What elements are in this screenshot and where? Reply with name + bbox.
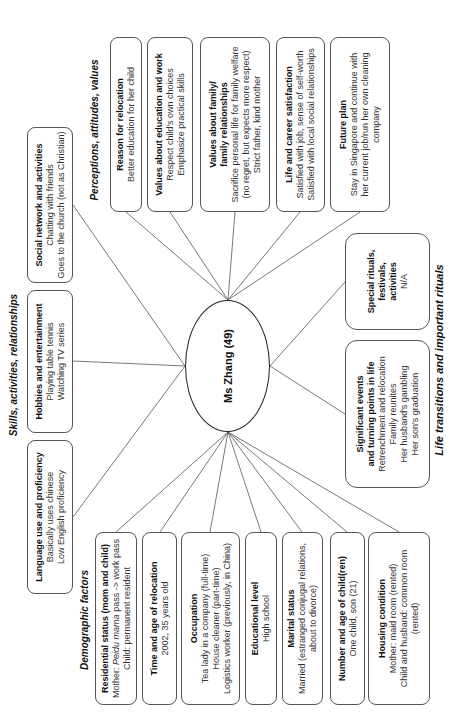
box-title: Values about family/: [208, 81, 219, 168]
center-node-label: Ms Zhang (49): [222, 329, 234, 403]
box-title: Language use and proficiency: [34, 452, 45, 582]
box-title: Social network and activities: [34, 143, 45, 266]
mind-map-canvas: Skills, activities, relationships Percep…: [0, 0, 453, 728]
box-future-plan: Future plan Stay in Singapore and contin…: [330, 37, 390, 212]
box-title: Marital status: [286, 589, 297, 647]
category-label-demographic: Demographic factors: [79, 570, 90, 670]
box-educational-level: Educational level High school: [245, 532, 277, 705]
box-life-career-satisfaction: Life and career satisfaction Satisfied w…: [276, 37, 325, 212]
box-time-age-relocation: Time and age of relocation 2002, 35 year…: [142, 532, 177, 705]
box-title: Occupation: [189, 594, 200, 644]
box-values-education-work: Values about education and work Respect …: [147, 37, 193, 212]
box-title: Residential status (mom and child): [100, 544, 111, 693]
box-title: Reason for relocation: [115, 78, 126, 171]
box-values-family: Values about family/ family relationship…: [200, 37, 270, 212]
box-title: Housing condition: [377, 579, 388, 658]
category-label-life-transitions: Life transitions and important rituals: [433, 264, 445, 455]
box-residential-status: Residential status (mom and child) Mothe…: [95, 532, 137, 705]
box-reason-for-relocation: Reason for relocation Better education f…: [110, 37, 142, 212]
box-hobbies: Hobbies and entertainment Playing table …: [27, 290, 73, 433]
box-title: Number and age of child(ren): [337, 556, 348, 681]
box-language-use: Language use and proficiency Basically u…: [27, 440, 73, 594]
box-title: Values about education and work: [154, 53, 165, 196]
box-marital-status: Marital status Married (estranged conjug…: [282, 532, 323, 705]
box-title: Special rituals,: [366, 250, 377, 314]
box-special-rituals: Special rituals, festivals, activities N…: [345, 233, 430, 330]
box-number-age-children: Number and age of child(ren) One child, …: [330, 532, 365, 705]
box-title: Significant events: [355, 375, 366, 452]
box-title: Educational level: [250, 582, 261, 656]
box-title: Future plan: [338, 100, 349, 149]
category-label-skills: Skills, activities, relationships: [8, 294, 19, 436]
box-occupation: Occupation Tea lady in a company (full-t…: [181, 532, 240, 705]
box-title: Life and career satisfaction: [284, 66, 295, 183]
category-label-perceptions: Perceptions, attitudes, values: [89, 59, 100, 200]
box-social-network: Social network and activities Chatting w…: [27, 127, 73, 283]
box-title: Hobbies and entertainment: [34, 304, 45, 420]
box-significant-events: Significant events and turning points in…: [345, 340, 430, 488]
box-title: Time and age of relocation: [149, 562, 160, 676]
center-node: Ms Zhang (49): [185, 300, 270, 432]
box-housing-condition: Housing condition Mother: maid room (ren…: [368, 532, 430, 705]
